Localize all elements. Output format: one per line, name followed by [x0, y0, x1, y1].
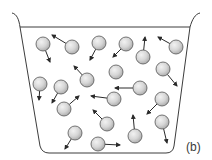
molecule: [156, 62, 177, 86]
molecule: [52, 80, 68, 103]
molecule: [128, 115, 142, 143]
molecule-sphere-icon: [33, 77, 47, 91]
molecule: [109, 65, 123, 79]
velocity-arrow-icon: [144, 37, 145, 50]
molecule: [91, 137, 120, 151]
molecule: [74, 66, 94, 87]
beaker-right-lip: [190, 13, 200, 27]
molecule: [33, 77, 47, 100]
molecule-sphere-icon: [57, 102, 71, 116]
velocity-arrow-icon: [147, 104, 157, 114]
molecule: [147, 92, 169, 114]
molecule: [93, 110, 114, 131]
molecule: [52, 35, 79, 54]
molecule: [36, 37, 50, 62]
velocity-arrow-icon: [158, 37, 170, 44]
gas-molecules: [33, 35, 183, 151]
molecule-sphere-icon: [54, 80, 68, 94]
molecule-sphere-icon: [136, 50, 150, 64]
molecule-sphere-icon: [169, 40, 183, 54]
molecule-sphere-icon: [109, 65, 123, 79]
molecule-sphere-icon: [155, 92, 169, 106]
molecule: [158, 37, 183, 54]
molecule: [65, 126, 82, 149]
molecule-sphere-icon: [36, 37, 50, 51]
velocity-arrow-icon: [65, 139, 71, 149]
molecule: [57, 96, 79, 116]
panel-label: (b): [186, 140, 201, 154]
molecule-sphere-icon: [128, 129, 142, 143]
velocity-arrow-icon: [167, 74, 177, 86]
molecule: [113, 37, 133, 57]
molecule-sphere-icon: [133, 81, 147, 95]
velocity-arrow-icon: [46, 51, 51, 63]
molecule-sphere-icon: [156, 62, 170, 76]
molecule-sphere-icon: [91, 137, 105, 151]
gas-container-diagram: [0, 0, 212, 160]
molecule-sphere-icon: [80, 73, 94, 87]
velocity-arrow-icon: [133, 115, 134, 129]
velocity-arrow-icon: [39, 91, 40, 100]
molecule-sphere-icon: [100, 117, 114, 131]
molecule-sphere-icon: [119, 37, 133, 51]
molecule: [91, 92, 121, 106]
velocity-arrow-icon: [90, 49, 96, 60]
molecule-sphere-icon: [65, 40, 79, 54]
molecule-sphere-icon: [68, 126, 82, 140]
molecule-sphere-icon: [92, 36, 106, 50]
molecule: [90, 36, 106, 60]
velocity-arrow-icon: [69, 96, 79, 104]
velocity-arrow-icon: [74, 66, 82, 75]
velocity-arrow-icon: [91, 96, 107, 98]
molecule: [155, 115, 169, 143]
velocity-arrow-icon: [52, 35, 66, 43]
velocity-arrow-icon: [52, 93, 58, 103]
velocity-arrow-icon: [113, 49, 121, 57]
velocity-arrow-icon: [164, 129, 167, 143]
beaker-left-lip: [12, 13, 20, 27]
molecule-sphere-icon: [107, 92, 121, 106]
velocity-arrow-icon: [105, 144, 120, 145]
molecule-sphere-icon: [155, 115, 169, 129]
molecule: [136, 37, 150, 64]
molecule: [115, 81, 147, 95]
velocity-arrow-icon: [93, 110, 102, 119]
